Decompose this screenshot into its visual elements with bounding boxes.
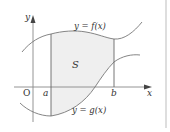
a-label: a (43, 88, 48, 98)
b-label: b (111, 88, 117, 98)
x-axis-label: x (147, 88, 152, 98)
y-axis-arrow-icon (31, 15, 36, 23)
y-axis-label: y (24, 12, 31, 22)
region-s-label: S (72, 59, 79, 70)
f-curve-label: y = f(x) (73, 21, 106, 31)
origin-label: O (23, 88, 30, 98)
g-curve-label: y = g(x) (71, 105, 106, 115)
area-between-curves-diagram: y x O a b S y = f(x) y = g(x) (0, 0, 170, 132)
